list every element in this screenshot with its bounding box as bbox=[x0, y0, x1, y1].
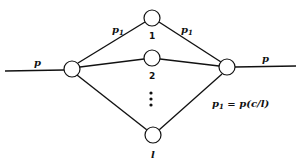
branch-label-p: p bbox=[181, 24, 188, 35]
equation-lhs: p bbox=[212, 98, 219, 109]
edge-source-nl bbox=[77, 75, 147, 130]
node-l bbox=[145, 127, 161, 143]
branch-label-left: p1 bbox=[112, 24, 124, 37]
node-2-label: 2 bbox=[149, 71, 155, 81]
source-node bbox=[64, 61, 80, 77]
edge-source-n2 bbox=[80, 59, 144, 67]
sink-node bbox=[219, 59, 235, 75]
node-l-label: l bbox=[151, 149, 155, 160]
edge-n2-sink bbox=[160, 59, 219, 66]
output-label: p bbox=[262, 53, 269, 64]
network-diagram: 1 2 l p p p1 p1 p1 = p(c/l) bbox=[0, 0, 301, 160]
node-1 bbox=[144, 10, 160, 26]
node-2 bbox=[144, 50, 160, 66]
branch-label-right: p1 bbox=[181, 24, 193, 37]
input-edge bbox=[5, 70, 64, 71]
output-edge bbox=[235, 66, 296, 67]
equation-label: p1 = p(c/l) bbox=[212, 98, 269, 111]
branch-label-p: p bbox=[112, 24, 119, 35]
ellipsis-dot bbox=[149, 97, 152, 100]
ellipsis-dot bbox=[149, 103, 152, 106]
branch-label-sub: 1 bbox=[119, 28, 124, 37]
input-label: p bbox=[34, 57, 41, 68]
equation-rhs: = p(c/l) bbox=[224, 98, 270, 109]
ellipsis-dot bbox=[149, 91, 152, 94]
branch-label-sub: 1 bbox=[188, 28, 193, 37]
node-1-label: 1 bbox=[149, 31, 155, 41]
